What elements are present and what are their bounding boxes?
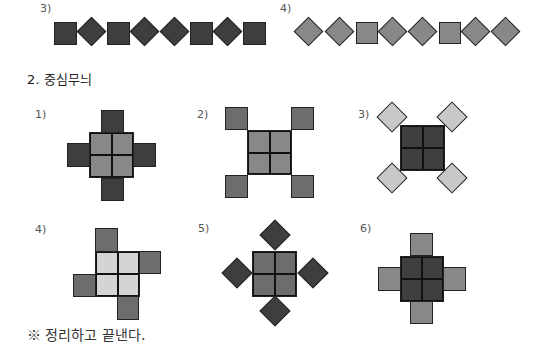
arm-bottom xyxy=(410,301,433,324)
arm-bottom xyxy=(101,178,124,201)
arm-top xyxy=(410,233,433,256)
diamond-tile xyxy=(408,17,438,47)
diamond-tile xyxy=(491,17,521,47)
corner-bottom-left xyxy=(225,175,248,198)
pattern-5-label: 5) xyxy=(198,222,209,235)
diamond-tile xyxy=(325,17,355,47)
corner-top-right xyxy=(291,107,314,130)
diamond-tile xyxy=(378,17,408,47)
corner-bottom-right xyxy=(291,175,314,198)
pattern-1-label: 1) xyxy=(35,108,46,121)
diamond-left xyxy=(221,257,252,288)
arm-top xyxy=(101,110,124,133)
arm-right xyxy=(139,251,161,274)
arm-top xyxy=(95,228,118,252)
square-tile xyxy=(107,22,130,45)
pattern-2-label: 2) xyxy=(197,108,208,121)
arm-right xyxy=(443,267,466,291)
section-title: 2. 중심무늬 xyxy=(27,69,92,88)
diamond-tile xyxy=(461,17,491,47)
diamond-bottom xyxy=(259,295,290,326)
arm-right xyxy=(133,143,156,167)
square-tile xyxy=(190,22,213,45)
center-block xyxy=(400,256,444,302)
pattern-6-label: 6) xyxy=(360,222,371,235)
center-block xyxy=(400,125,445,171)
square-tile xyxy=(439,22,461,44)
diamond-tile xyxy=(213,17,243,47)
arm-left xyxy=(378,267,401,291)
arm-left xyxy=(67,143,90,167)
pattern-4-label: 4) xyxy=(280,2,291,15)
pattern-4-label: 4) xyxy=(35,223,46,236)
square-tile xyxy=(356,22,378,44)
corner-top-left xyxy=(225,107,248,130)
pattern-3-label: 3) xyxy=(40,2,51,15)
diamond-tile xyxy=(160,17,190,47)
closing-note: ※ 정리하고 끝낸다. xyxy=(27,324,145,344)
center-block xyxy=(95,251,140,297)
center-block xyxy=(89,132,134,178)
square-tile xyxy=(243,22,266,45)
square-tile xyxy=(54,22,77,45)
diamond-tile xyxy=(77,17,107,47)
arm-left xyxy=(73,274,96,297)
center-block xyxy=(252,251,297,297)
diamond-tile xyxy=(130,17,160,47)
diamond-top xyxy=(259,219,290,250)
arm-bottom xyxy=(117,296,139,320)
diamond-right xyxy=(297,257,328,288)
pattern-3-label: 3) xyxy=(358,108,369,121)
center-block xyxy=(247,130,292,175)
diamond-tile xyxy=(294,17,324,47)
